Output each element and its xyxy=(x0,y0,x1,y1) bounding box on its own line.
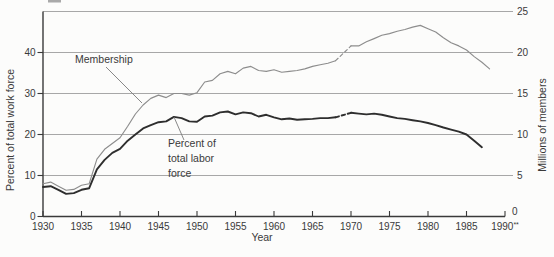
membership-annotation: Membership xyxy=(75,53,133,65)
x-tick-label-1975: 1975 xyxy=(378,221,401,232)
x-tick-suffix: ** xyxy=(513,221,519,228)
x-tick-label-1970: 1970 xyxy=(340,221,363,232)
data-series xyxy=(43,25,490,194)
x-tick-label-1930: 1930 xyxy=(32,221,55,232)
union-membership-chart: 0102030400510152025193019351940194519501… xyxy=(0,0,554,257)
x-tick-label-1965: 1965 xyxy=(301,221,324,232)
right-tick-label-0: 0 xyxy=(512,206,518,217)
right-tick-label-5: 5 xyxy=(517,170,523,181)
percent-line-break-dashed xyxy=(336,113,351,118)
x-tick-label-1980: 1980 xyxy=(417,221,440,232)
membership-line-post-break xyxy=(351,25,490,69)
x-tick-label-1940: 1940 xyxy=(109,221,132,232)
left-axis-title: Percent of total work force xyxy=(4,69,16,191)
right-tick-label-20: 20 xyxy=(517,47,529,58)
percent-line-post-break xyxy=(351,113,482,147)
x-tick-label-1955: 1955 xyxy=(224,221,247,232)
figure-canvas: 0102030400510152025193019351940194519501… xyxy=(0,0,554,257)
left-tick-label-40: 40 xyxy=(24,47,36,58)
right-axis-title: Millions of members xyxy=(536,78,548,171)
left-tick-label-20: 20 xyxy=(24,129,36,140)
x-tick-label-1945: 1945 xyxy=(147,221,170,232)
gridlines xyxy=(43,12,513,176)
x-tick-label-1960: 1960 xyxy=(263,221,286,232)
x-tick-label-1990: 1990** xyxy=(491,221,519,232)
membership-line-break-dashed xyxy=(336,46,351,61)
left-tick-label-10: 10 xyxy=(24,170,36,181)
x-tick-label-1935: 1935 xyxy=(70,221,93,232)
x-tick-label-1985: 1985 xyxy=(455,221,478,232)
x-axis-title: Year xyxy=(251,231,273,243)
percent-annotation-line3: force xyxy=(168,167,192,179)
right-tick-label-25: 25 xyxy=(517,6,529,17)
percent-annotation-line2: total labor xyxy=(168,152,215,164)
right-tick-label-10: 10 xyxy=(517,129,529,140)
right-tick-label-15: 15 xyxy=(517,88,529,99)
scan-artifact xyxy=(48,0,61,3)
x-tick-label-1950: 1950 xyxy=(186,221,209,232)
membership-pointer-line xyxy=(106,67,142,103)
percent-annotation-line1: Percent of xyxy=(168,137,216,149)
left-tick-label-30: 30 xyxy=(24,88,36,99)
